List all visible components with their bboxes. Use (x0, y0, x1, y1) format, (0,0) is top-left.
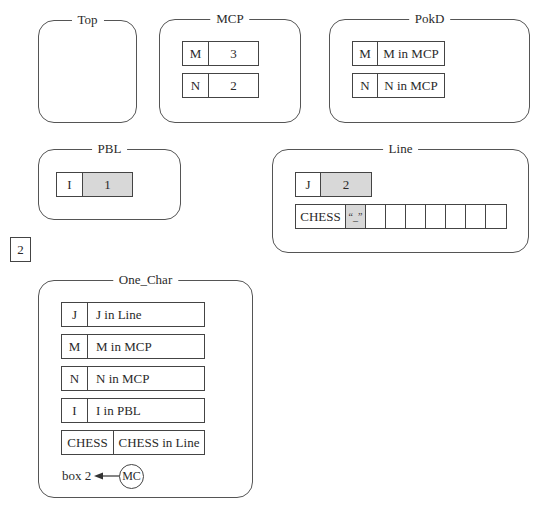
line-chess-cell-7 (485, 204, 507, 229)
line-chess-cell-5 (445, 204, 466, 229)
one-char-n-value: N in MCP (87, 366, 205, 391)
line-chess-name: CHESS (295, 204, 346, 229)
pbl-i-name: I (56, 172, 83, 197)
line-chess-cell-2 (385, 204, 406, 229)
pokd-n-name: N (352, 73, 378, 98)
mcp-n-value: 2 (208, 73, 259, 98)
one-char-j-name: J (61, 302, 88, 327)
pokd-n-value: N in MCP (377, 73, 445, 98)
line-chess-cell-3 (405, 204, 426, 229)
frame-title-mcp: MCP (210, 11, 249, 27)
one-char-i-name: I (61, 398, 88, 423)
frame-pokd: PokD (329, 19, 530, 123)
mcp-m-value: 3 (208, 41, 259, 66)
line-chess-cell-6 (465, 204, 486, 229)
one-char-i-value: I in PBL (87, 398, 205, 423)
arrow-left-icon (94, 470, 120, 482)
frame-title-pbl: PBL (92, 141, 128, 157)
return-node-mc: MC (119, 464, 144, 489)
standalone-box-2: 2 (10, 237, 31, 262)
line-chess-cell-0: “_” (345, 204, 366, 229)
mcp-n-name: N (182, 73, 209, 98)
one-char-chess-value: CHESS in Line (113, 430, 205, 455)
one-char-j-value: J in Line (87, 302, 205, 327)
pbl-i-value: 1 (82, 172, 133, 197)
frame-line: Line (272, 149, 529, 253)
one-char-n-name: N (61, 366, 88, 391)
frame-title-one-char: One_Char (113, 272, 178, 288)
pokd-m-value: M in MCP (377, 41, 445, 66)
frame-title-pokd: PokD (409, 11, 451, 27)
frame-title-top: Top (71, 12, 103, 28)
one-char-m-name: M (61, 334, 88, 359)
line-j-name: J (295, 172, 321, 197)
frame-mcp: MCP (159, 19, 301, 123)
frame-top: Top (38, 20, 137, 123)
mcp-m-name: M (182, 41, 209, 66)
one-char-chess-name: CHESS (61, 430, 114, 455)
line-j-value: 2 (320, 172, 372, 197)
return-label: box 2 (62, 468, 91, 484)
line-chess-cell-4 (425, 204, 446, 229)
line-chess-cell-1 (365, 204, 386, 229)
frame-title-line: Line (383, 141, 419, 157)
one-char-m-value: M in MCP (87, 334, 205, 359)
pokd-m-name: M (352, 41, 378, 66)
